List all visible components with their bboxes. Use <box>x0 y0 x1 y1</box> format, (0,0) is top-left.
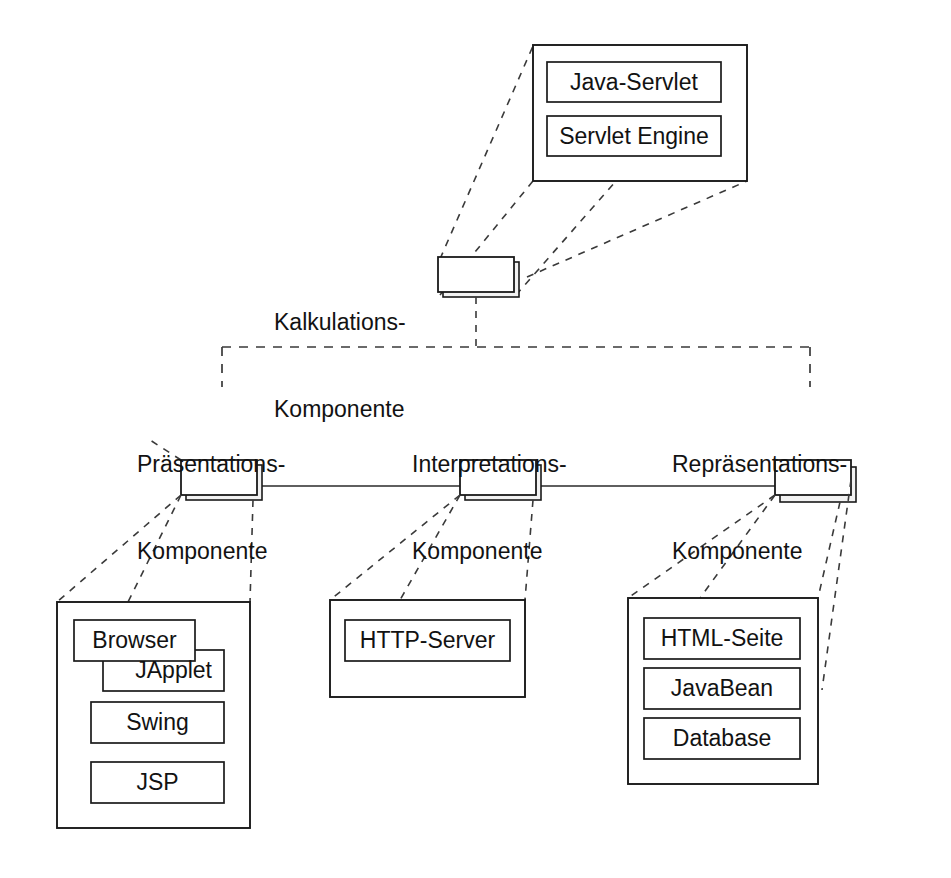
component-label-interpretations: Interpretations- Komponente <box>412 392 567 624</box>
component-label-kalkulations-line2: Komponente <box>274 395 406 424</box>
component-label-repraesentations-line2: Komponente <box>672 537 847 566</box>
component-label-praesentations: Präsentations- Komponente <box>137 392 285 624</box>
detail-box-repraesentations <box>628 598 818 784</box>
component-label-kalkulations-line1: Kalkulations- <box>274 308 406 337</box>
detail-box-kalkulations <box>533 45 747 181</box>
component-label-praesentations-line1: Präsentations- <box>137 450 285 479</box>
component-label-interpretations-line2: Komponente <box>412 537 567 566</box>
detail-box-praesentations <box>57 602 250 828</box>
component-label-interpretations-line1: Interpretations- <box>412 450 567 479</box>
component-label-kalkulations: Kalkulations- Komponente <box>274 250 406 482</box>
component-icon-kalkulations <box>438 257 519 297</box>
component-label-repraesentations-line1: Repräsentations- <box>672 450 847 479</box>
component-label-repraesentations: Repräsentations- Komponente <box>672 392 847 624</box>
component-diagram: Kalkulations- Komponente Präsentations- … <box>0 0 951 878</box>
component-label-praesentations-line2: Komponente <box>137 537 285 566</box>
